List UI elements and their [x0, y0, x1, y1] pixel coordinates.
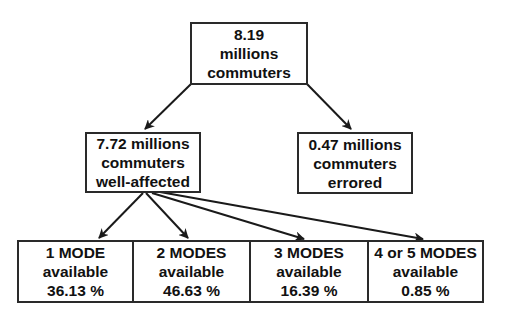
node-4-or-5-modes-line-3: 0.85 % — [401, 281, 449, 300]
node-4-or-5-modes: 4 or 5 MODES available 0.85 % — [367, 240, 484, 303]
root-node-line-1: 8.19 — [234, 25, 264, 44]
node-errored-line-1: 0.47 millions — [308, 135, 401, 154]
node-2-modes: 2 MODES available 46.63 % — [132, 240, 251, 303]
node-4-or-5-modes-line-1: 4 or 5 MODES — [374, 243, 477, 262]
node-well-affected-line-1: 7.72 millions — [96, 134, 189, 153]
arrow-root-to-well-affected — [145, 84, 191, 129]
arrow-well-affected-to-3-modes — [152, 193, 304, 239]
arrow-well-affected-to-4-or-5-modes — [160, 192, 423, 239]
root-node-line-2: millions — [220, 44, 279, 63]
arrow-root-to-errored — [307, 84, 351, 129]
node-4-or-5-modes-line-2: available — [393, 262, 459, 281]
arrow-well-affected-to-2-modes — [146, 193, 188, 238]
arrow-well-affected-to-1-mode — [99, 193, 143, 238]
node-errored: 0.47 millions commuters errored — [297, 132, 413, 194]
node-2-modes-line-1: 2 MODES — [157, 243, 227, 262]
node-3-modes-line-1: 3 MODES — [274, 243, 344, 262]
node-2-modes-line-3: 46.63 % — [163, 281, 220, 300]
root-node-line-3: commuters — [207, 63, 291, 82]
node-well-affected-line-3: well-affected — [96, 172, 190, 191]
node-3-modes-line-2: available — [276, 262, 342, 281]
node-well-affected-line-2: commuters — [101, 153, 185, 172]
node-1-mode-line-2: available — [43, 262, 109, 281]
node-2-modes-line-2: available — [159, 262, 225, 281]
node-1-mode-line-3: 36.13 % — [47, 281, 104, 300]
node-errored-line-3: errored — [328, 173, 382, 192]
node-well-affected: 7.72 millions commuters well-affected — [85, 132, 201, 193]
root-node-total-commuters: 8.19 millions commuters — [190, 22, 308, 85]
node-1-mode-line-1: 1 MODE — [46, 243, 105, 262]
node-3-modes-line-3: 16.39 % — [281, 281, 338, 300]
node-1-mode: 1 MODE available 36.13 % — [17, 240, 134, 303]
node-3-modes: 3 MODES available 16.39 % — [249, 240, 369, 303]
node-errored-line-2: commuters — [313, 154, 397, 173]
